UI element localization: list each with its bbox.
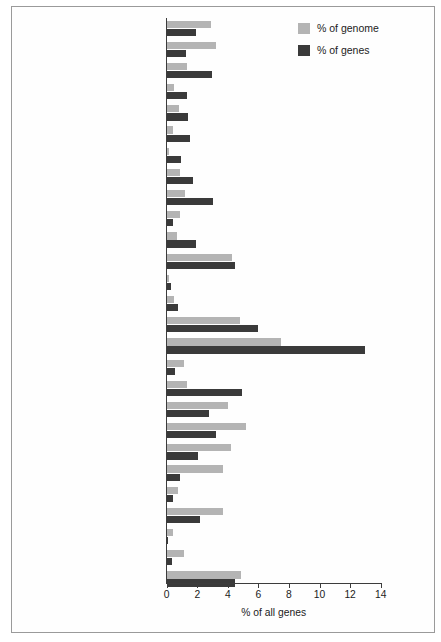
bar-genome bbox=[167, 169, 181, 176]
bar-genes bbox=[167, 283, 172, 290]
bar-genes bbox=[167, 558, 172, 565]
bar-genome bbox=[167, 381, 187, 388]
bar-genes bbox=[167, 474, 181, 481]
bar-genome bbox=[167, 126, 173, 133]
x-tick bbox=[381, 583, 382, 588]
x-tick-label: 0 bbox=[164, 589, 170, 601]
bar-genome bbox=[167, 487, 178, 494]
legend-label-genome: % of genome bbox=[317, 23, 379, 34]
legend-item-genes: % of genes bbox=[298, 42, 428, 59]
figure-container: % of genome % of genes TransporterIntrac… bbox=[0, 0, 441, 642]
chart-legend: % of genome % of genes bbox=[298, 20, 428, 64]
bar-genome bbox=[167, 190, 185, 197]
bar-genes bbox=[167, 410, 210, 417]
x-tick bbox=[258, 583, 259, 588]
bar-genes bbox=[167, 346, 366, 353]
bar-genome bbox=[167, 21, 211, 28]
x-tick-label: 6 bbox=[256, 589, 262, 601]
bar-genes bbox=[167, 177, 194, 184]
bar-genome bbox=[167, 444, 231, 451]
x-axis-line bbox=[167, 583, 381, 584]
legend-item-genome: % of genome bbox=[298, 20, 428, 37]
x-tick-label: 4 bbox=[225, 589, 231, 601]
bar-genes bbox=[167, 156, 182, 163]
bar-genome bbox=[167, 465, 224, 472]
bar-genome bbox=[167, 508, 224, 515]
bar-genes bbox=[167, 29, 196, 36]
y-axis-line bbox=[166, 18, 167, 584]
x-axis-title: % of all genes bbox=[167, 607, 381, 618]
bar-genes bbox=[167, 452, 198, 459]
bar-genes bbox=[167, 304, 178, 311]
bar-genes bbox=[167, 325, 259, 332]
bar-genome bbox=[167, 148, 169, 155]
legend-swatch-genes bbox=[298, 45, 310, 56]
bar-genes bbox=[167, 135, 190, 142]
bar-genome bbox=[167, 42, 216, 49]
bar-genome bbox=[167, 571, 241, 578]
bar-genes bbox=[167, 495, 173, 502]
bar-genome bbox=[167, 63, 187, 70]
x-tick bbox=[167, 583, 168, 588]
bar-genome bbox=[167, 296, 175, 303]
bar-genes bbox=[167, 262, 235, 269]
bar-genome bbox=[167, 232, 177, 239]
x-tick-label: 14 bbox=[375, 589, 386, 601]
bar-genes bbox=[167, 516, 200, 523]
bar-genes bbox=[167, 198, 214, 205]
x-tick bbox=[289, 583, 290, 588]
bar-genes bbox=[167, 389, 243, 396]
bar-genes bbox=[167, 368, 175, 375]
plot-area: % of genome % of genes TransporterIntrac… bbox=[0, 0, 441, 642]
bar-genes bbox=[167, 50, 186, 57]
bar-genome bbox=[167, 423, 246, 430]
x-tick bbox=[228, 583, 229, 588]
x-tick bbox=[350, 583, 351, 588]
bar-genome bbox=[167, 317, 240, 324]
bar-genes bbox=[167, 431, 216, 438]
legend-swatch-genome bbox=[298, 23, 310, 34]
legend-label-genes: % of genes bbox=[317, 45, 370, 56]
bar-genome bbox=[167, 550, 185, 557]
x-tick-label: 10 bbox=[314, 589, 325, 601]
bar-genome bbox=[167, 529, 173, 536]
bar-genome bbox=[167, 105, 179, 112]
x-tick-label: 2 bbox=[194, 589, 200, 601]
bar-genes bbox=[167, 219, 173, 226]
bar-genome bbox=[167, 275, 169, 282]
bar-genome bbox=[167, 254, 233, 261]
bar-genes bbox=[167, 92, 187, 99]
x-tick bbox=[320, 583, 321, 588]
bar-genes bbox=[167, 113, 188, 120]
bar-genome bbox=[167, 84, 175, 91]
bar-genes bbox=[167, 71, 212, 78]
bar-genome bbox=[167, 360, 184, 367]
bar-genome bbox=[167, 338, 282, 345]
bar-genome bbox=[167, 211, 181, 218]
x-tick-label: 8 bbox=[286, 589, 292, 601]
x-tick bbox=[197, 583, 198, 588]
bar-genes bbox=[167, 240, 197, 247]
x-tick-label: 12 bbox=[344, 589, 355, 601]
bar-genome bbox=[167, 402, 228, 409]
